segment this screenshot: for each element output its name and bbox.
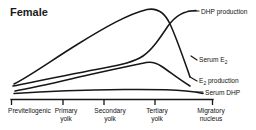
series-label-serum-dhp: Serum DHP — [205, 89, 241, 96]
figure-panel: Female DHP production Serum E2 E2 produc… — [0, 0, 256, 130]
series-label-dhp-production: DHP production — [201, 8, 248, 16]
page-title: Female — [10, 6, 48, 18]
hormone-profile-chart: Female DHP production Serum E2 E2 produc… — [0, 0, 256, 130]
stage-label-migratory-nucleus: Migratorynucleus — [197, 107, 225, 122]
stage-label-previtellogenic: Previtellogenic — [8, 107, 52, 115]
